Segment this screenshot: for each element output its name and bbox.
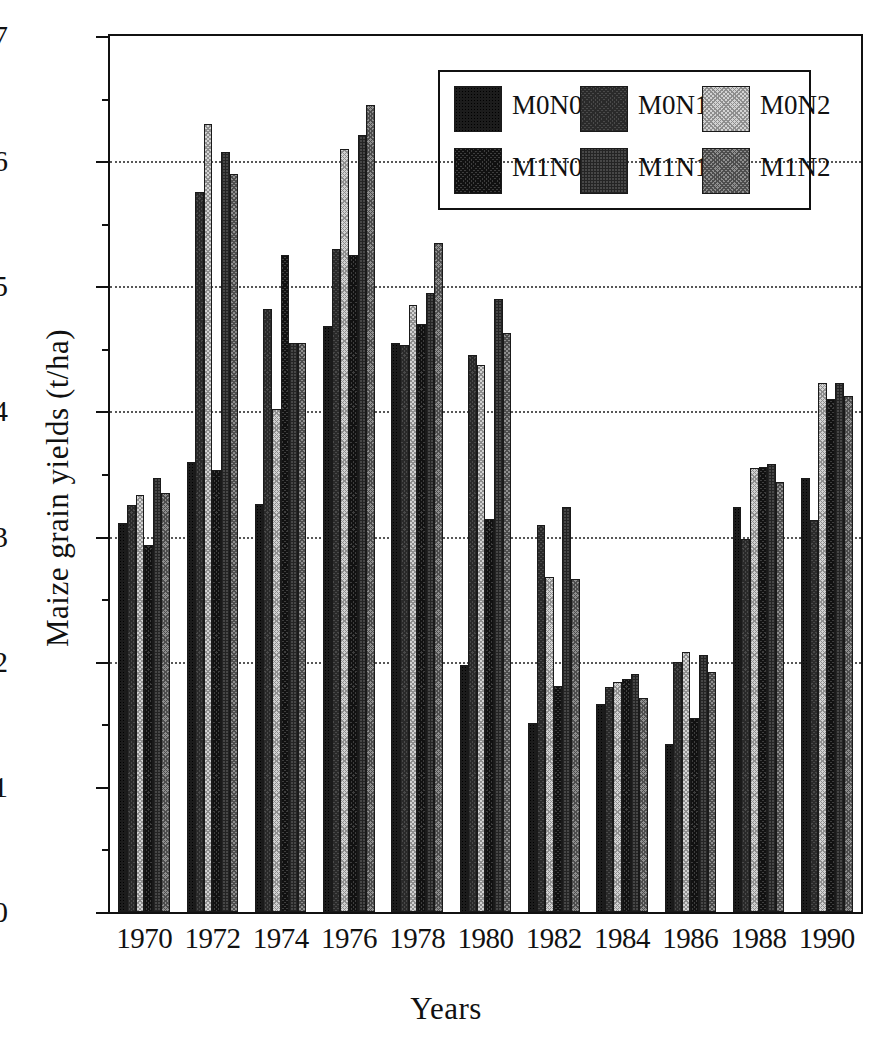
bar-group [178,36,246,912]
bar [477,365,486,912]
bar [622,679,631,912]
bar-group [247,36,315,912]
y-tick-minor [102,849,110,851]
y-tick-minor [102,599,110,601]
bar [127,505,136,912]
bar [426,293,435,912]
bar [699,655,708,912]
bar-group [315,36,383,912]
bar [818,383,827,912]
bar [144,545,153,912]
y-tick-major [96,662,110,664]
bar [673,662,682,912]
bar [639,698,648,912]
legend-label: M0N1 [638,90,709,121]
y-tick-label: 1 [0,772,8,802]
bar [281,255,290,912]
legend-row: M1N0M1N1M1N2 [440,142,809,200]
legend-label: M0N2 [760,90,831,121]
bar [776,482,785,912]
bar [400,345,409,912]
bar [358,135,367,912]
bar [340,149,349,912]
y-axis-title: Maize grain yields (t/ha) [40,178,76,798]
y-tick-label: 2 [0,647,8,677]
bar [136,495,145,912]
bar [759,467,768,913]
y-tick-major [96,411,110,413]
bar [118,523,127,912]
bar [528,723,537,912]
bar [801,478,810,912]
bar [827,399,836,912]
bar [571,579,580,912]
legend-swatch-icon [580,148,628,194]
legend-label: M1N1 [638,152,709,183]
bar [844,396,853,912]
legend-label: M1N0 [512,152,583,183]
bar [434,243,443,913]
chart-figure: Maize grain yields (t/ha) Years 01234567… [0,0,892,1051]
bar [289,343,298,912]
bar [494,299,503,912]
y-tick-label: 0 [0,897,8,927]
bar [298,343,307,912]
y-tick-minor [102,224,110,226]
bar [212,470,221,912]
bar [332,249,341,912]
legend-swatch-icon [702,148,750,194]
bar [810,520,819,912]
bar [503,333,512,912]
legend-row: M0N0M0N1M0N2 [440,80,809,138]
bar [554,686,563,913]
legend-label: M0N0 [512,90,583,121]
y-tick-minor [102,474,110,476]
bar [204,124,213,912]
bar [391,343,400,912]
bar [605,687,614,912]
y-tick-minor [102,724,110,726]
bar [349,255,358,912]
bar [187,462,196,913]
legend-swatch-icon [580,86,628,132]
legend-swatch-icon [702,86,750,132]
legend-swatch-icon [454,86,502,132]
bar [230,174,239,912]
y-tick-major [96,161,110,163]
bar [366,105,375,912]
y-tick-major [96,36,110,38]
y-tick-minor [102,99,110,101]
bar [263,309,272,912]
bar [468,355,477,912]
bar [545,577,554,912]
y-tick-label: 6 [0,146,8,176]
bar [562,507,571,912]
bar [613,682,622,912]
bar [596,704,605,912]
bar [835,383,844,912]
y-tick-major [96,912,110,914]
bar [460,665,469,912]
bar [272,409,281,912]
y-tick-label: 3 [0,522,8,552]
bar [161,493,170,912]
bar [682,652,691,912]
bar [741,539,750,912]
y-tick-major [96,286,110,288]
legend-label: M1N2 [760,152,831,183]
bar [485,519,494,912]
y-tick-label: 7 [0,21,8,51]
y-tick-minor [102,349,110,351]
y-tick-label: 5 [0,271,8,301]
bar [409,305,418,912]
y-tick-major [96,787,110,789]
bar [195,192,204,912]
bar [708,672,717,912]
y-tick-label: 4 [0,396,8,426]
bar [750,468,759,912]
bar [255,504,264,912]
bar [417,324,426,912]
y-tick-major [96,537,110,539]
bar [153,478,162,912]
bar [323,326,332,912]
